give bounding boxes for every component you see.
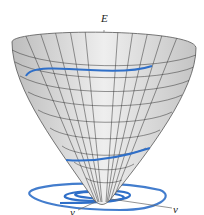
paraboloid-diagram: E v y [0, 0, 204, 215]
paraboloid-surface [12, 32, 196, 204]
axis-label-e: E [101, 12, 108, 24]
axis-label-v: v [173, 203, 178, 215]
surface-figure [0, 0, 204, 215]
axis-label-y: y [70, 206, 75, 215]
